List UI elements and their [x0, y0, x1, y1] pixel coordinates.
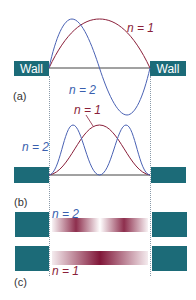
n2-label-b-text: n = 2: [22, 140, 49, 154]
n2-label-b: n = 2: [22, 140, 49, 154]
wall-left-c-top: [15, 212, 49, 237]
panel-label-b: (b): [14, 196, 27, 208]
density-n1-b: [49, 125, 150, 175]
density-band-n1: [52, 251, 148, 265]
n2-label-a-text: n = 2: [69, 83, 96, 97]
n1-label-b: n = 1: [74, 103, 101, 117]
n1-label-b-text: n = 1: [74, 103, 101, 117]
n1-label-c-text: n = 1: [52, 264, 79, 278]
n1-label-a-text: n = 1: [127, 21, 154, 35]
n2-label-a: n = 2: [69, 83, 96, 97]
n1-label-a: n = 1: [127, 21, 154, 35]
wall-right-c-bottom: [152, 246, 187, 271]
wall-left-b: [14, 167, 49, 183]
n2-label-c: n = 2: [52, 207, 79, 221]
n1-label-c: n = 1: [52, 264, 79, 278]
n2-label-c-text: n = 2: [52, 207, 79, 221]
panel-label-a: (a): [13, 90, 26, 102]
wall-right-b: [151, 167, 186, 183]
wall-right-c-top: [152, 212, 187, 237]
panel-label-c: (c): [14, 276, 27, 288]
wall-left-c-bottom: [15, 246, 49, 271]
density-n2-b: [49, 125, 150, 175]
